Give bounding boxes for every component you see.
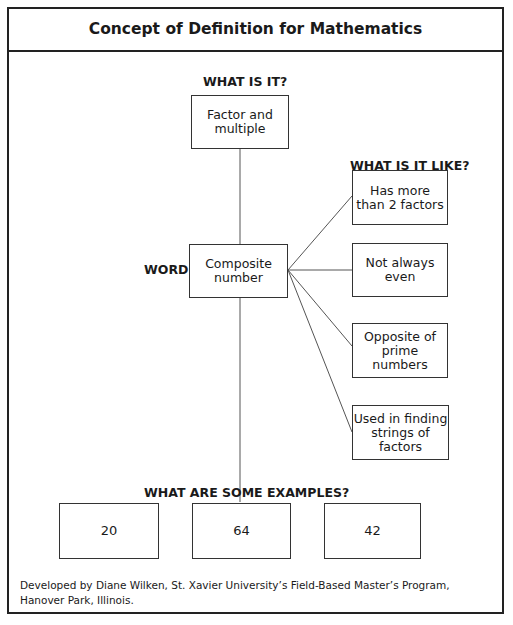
definition-box: Factor and multiple bbox=[191, 95, 289, 149]
property-box-3: Opposite of prime numbers bbox=[352, 323, 448, 378]
property-box-1: Has more than 2 factors bbox=[352, 170, 448, 225]
property-box-4: Used in finding strings of factors bbox=[352, 405, 449, 460]
word-text: Composite number bbox=[205, 257, 272, 285]
example-box-2: 64 bbox=[192, 503, 291, 559]
word-box: Composite number bbox=[189, 244, 288, 298]
definition-text: Factor and multiple bbox=[207, 108, 273, 136]
what-is-it-label: WHAT IS IT? bbox=[203, 74, 287, 89]
property-box-2: Not always even bbox=[352, 243, 448, 297]
word-label: WORD bbox=[144, 262, 188, 277]
attribution-footer: Developed by Diane Wilken, St. Xavier Un… bbox=[20, 578, 490, 608]
examples-label: WHAT ARE SOME EXAMPLES? bbox=[144, 485, 349, 500]
example-box-1: 20 bbox=[59, 503, 159, 559]
example-box-3: 42 bbox=[324, 503, 421, 559]
